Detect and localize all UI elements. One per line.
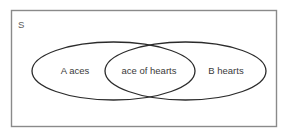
venn-diagram-figure: S A aces ace of hearts B hearts xyxy=(0,0,292,138)
set-a-label: A aces xyxy=(61,65,90,76)
venn-diagram-canvas: S A aces ace of hearts B hearts xyxy=(0,0,292,138)
intersection-label: ace of hearts xyxy=(122,65,177,76)
universe-label: S xyxy=(18,19,24,30)
set-b-label: B hearts xyxy=(208,65,244,76)
